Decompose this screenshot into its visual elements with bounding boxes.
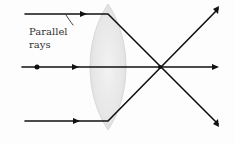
focal-point-icon — [158, 65, 162, 69]
arrowhead-top-icon — [80, 11, 87, 17]
source-dot-icon — [35, 65, 40, 70]
arrowhead-center-end-icon — [212, 64, 219, 70]
label-line-1: Parallel — [29, 25, 68, 38]
arrowhead-bottom-icon — [73, 118, 80, 124]
label-pointer — [66, 15, 73, 25]
parallel-rays-label: Parallel rays — [29, 25, 68, 51]
lens-diagram: Parallel rays — [0, 0, 235, 144]
label-line-2: rays — [29, 38, 68, 51]
ray-diagram-svg — [0, 0, 235, 144]
arrowhead-center-icon — [72, 64, 79, 70]
